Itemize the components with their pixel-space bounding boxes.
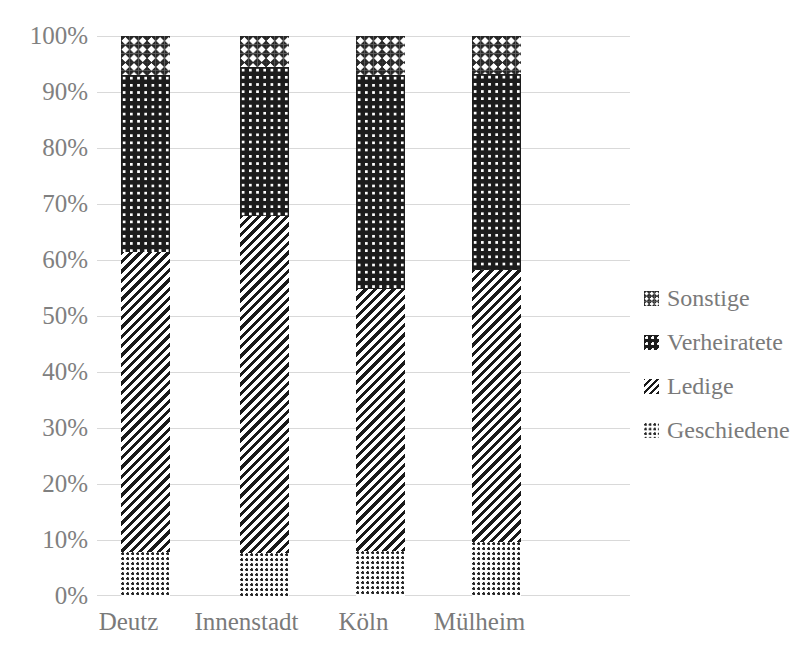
y-tick-label: 80% xyxy=(2,135,88,160)
y-tick-label: 50% xyxy=(2,303,88,328)
x-tick-label-muelheim: Mülheim xyxy=(412,608,547,636)
segment-verheiratete xyxy=(356,75,405,289)
y-tick-label: 20% xyxy=(2,471,88,496)
segment-geschiedene xyxy=(121,552,170,596)
y-tick-label: 70% xyxy=(2,191,88,216)
segment-geschiedene xyxy=(472,542,521,596)
plot-area xyxy=(97,36,630,596)
segment-ledige xyxy=(472,270,521,543)
segment-ledige xyxy=(121,252,170,553)
y-tick-label: 100% xyxy=(2,23,88,48)
legend-label: Sonstige xyxy=(667,285,750,311)
legend-label: Verheiratete xyxy=(667,329,783,355)
segment-sonstige xyxy=(472,36,521,74)
legend: Sonstige Verheiratete Ledige Geschiedene xyxy=(644,276,801,452)
segment-verheiratete xyxy=(240,67,289,217)
x-tick-label-koeln: Köln xyxy=(296,608,431,636)
stacked-bar-chart: 100% 90% 80% 70% 60% 50% 40% 30% 20% 10%… xyxy=(0,0,801,659)
y-tick-label: 90% xyxy=(2,79,88,104)
segment-verheiratete xyxy=(121,75,170,252)
segment-sonstige xyxy=(356,36,405,75)
segment-ledige xyxy=(356,289,405,551)
x-tick-label-innenstadt: Innenstadt xyxy=(178,608,315,636)
legend-item-geschiedene[interactable]: Geschiedene xyxy=(644,408,801,452)
y-tick-label: 0% xyxy=(2,583,88,608)
segment-geschiedene xyxy=(240,553,289,596)
legend-swatch-sonstige-icon xyxy=(644,291,659,306)
y-tick-label: 60% xyxy=(2,247,88,272)
legend-item-ledige[interactable]: Ledige xyxy=(644,364,801,408)
y-axis: 100% 90% 80% 70% 60% 50% 40% 30% 20% 10%… xyxy=(0,36,88,596)
legend-swatch-ledige-icon xyxy=(644,379,659,394)
segment-sonstige xyxy=(121,36,170,75)
segment-sonstige xyxy=(240,36,289,67)
segment-verheiratete xyxy=(472,74,521,270)
bar-deutz xyxy=(121,36,170,596)
segment-geschiedene xyxy=(356,551,405,596)
legend-swatch-geschiedene-icon xyxy=(644,423,659,438)
legend-label: Geschiedene xyxy=(667,417,790,443)
y-tick-label: 40% xyxy=(2,359,88,384)
legend-item-sonstige[interactable]: Sonstige xyxy=(644,276,801,320)
segment-ledige xyxy=(240,216,289,553)
y-tick-label: 10% xyxy=(2,527,88,552)
bar-muelheim xyxy=(472,36,521,596)
legend-label: Ledige xyxy=(667,373,734,399)
x-tick-label-deutz: Deutz xyxy=(61,608,196,636)
y-tick-label: 30% xyxy=(2,415,88,440)
bar-koeln xyxy=(356,36,405,596)
legend-item-verheiratete[interactable]: Verheiratete xyxy=(644,320,801,364)
bar-innenstadt xyxy=(240,36,289,596)
legend-swatch-verheiratete-icon xyxy=(644,335,659,350)
